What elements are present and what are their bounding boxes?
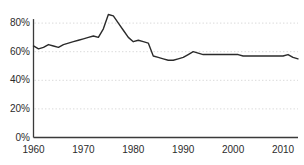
x-axis-tick-label: 1980 [116,145,150,155]
x-axis-tick-label: 1960 [17,145,51,155]
x-axis-tick-label: 2000 [216,145,250,155]
y-axis-tick-label: 20% [0,104,30,114]
y-axis-tick-label: 60% [0,47,30,57]
chart-plot-area [0,0,304,165]
x-axis-tick-label: 2010 [266,145,300,155]
y-axis-tick-label: 40% [0,75,30,85]
data-series-line [34,15,299,61]
axis-lines [34,19,299,137]
y-axis-tick-label: 0% [0,133,30,143]
line-chart: 0%20%40%60%80% 196019701980199020002010 [0,0,304,165]
x-axis-tick-label: 1970 [66,145,100,155]
x-axis-tick-label: 1990 [166,145,200,155]
y-axis-tick-label: 80% [0,18,30,28]
gridlines [35,23,299,109]
